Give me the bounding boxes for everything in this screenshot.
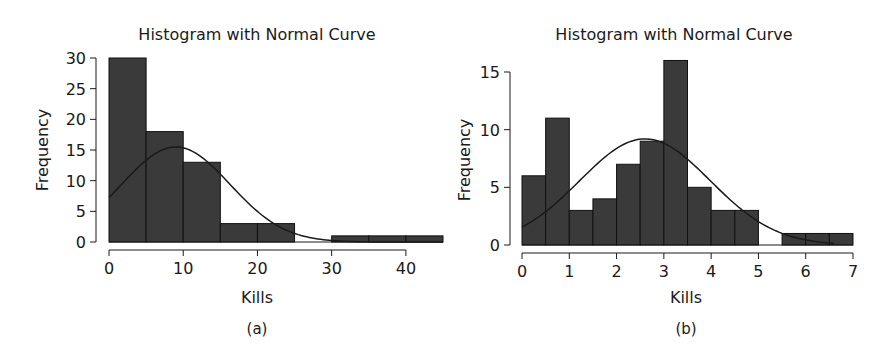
histogram-panel-b: Histogram with Normal Curve Frequency Ki… [440,0,885,362]
x-axis-label-b: Kills [670,288,702,307]
y-tick-label: 15 [480,63,500,82]
x-tick-label: 30 [321,259,341,278]
histogram-chart-b: Histogram with Normal Curve Frequency Ki… [440,0,885,362]
x-tick-label: 1 [564,262,574,281]
caption-a: (a) [227,320,287,338]
histogram-bar [109,58,146,242]
x-axis-label-a: Kills [241,288,273,307]
x-tick-label: 3 [659,262,669,281]
x-tick-label: 7 [848,262,858,281]
x-tick-label: 6 [801,262,811,281]
y-tick-label: 10 [480,121,500,140]
y-tick-label: 30 [66,49,86,68]
y-tick-label: 15 [66,141,86,160]
histogram-bar [735,210,759,245]
histogram-chart-a: Histogram with Normal Curve Frequency Ki… [0,0,445,362]
histogram-panel-a: Histogram with Normal Curve Frequency Ki… [0,0,445,362]
y-axis-label-a: Frequency [33,109,52,192]
x-tick-label: 10 [173,259,193,278]
histogram-bar [522,176,546,245]
histogram-bar [369,236,406,242]
histogram-bar [711,210,735,245]
chart-title-b: Histogram with Normal Curve [555,25,792,44]
y-tick-label: 5 [490,178,500,197]
y-tick-label: 0 [490,236,500,255]
y-tick-label: 10 [66,172,86,191]
y-tick-label: 20 [66,110,86,129]
histogram-bar [183,162,220,242]
y-tick-label: 5 [76,202,86,221]
histogram-bar [406,236,443,242]
y-axis-label-b: Frequency [455,119,474,202]
histogram-bar [569,210,593,245]
histogram-bar [546,118,570,245]
plot-area-b: 05101501234567 [480,60,858,281]
x-tick-label: 20 [247,259,267,278]
x-tick-label: 4 [706,262,716,281]
x-tick-label: 40 [396,259,416,278]
x-tick-label: 0 [517,262,527,281]
caption-b: (b) [656,320,716,338]
y-tick-label: 25 [66,80,86,99]
x-tick-label: 5 [753,262,763,281]
x-tick-label: 0 [104,259,114,278]
y-tick-label: 0 [76,233,86,252]
histogram-bar [617,164,641,245]
histogram-bar [593,199,617,245]
chart-title-a: Histogram with Normal Curve [138,25,375,44]
histogram-bar [640,141,664,245]
plot-area-a: 051015202530010203040 [66,49,443,278]
histogram-bar [664,60,688,245]
histogram-bar [220,224,257,242]
histogram-bar [688,187,712,245]
histogram-bar [257,224,294,242]
x-tick-label: 2 [611,262,621,281]
